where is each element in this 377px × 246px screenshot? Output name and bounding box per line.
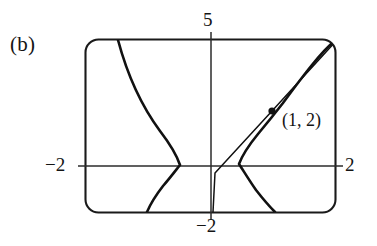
axis-label-top: 5	[203, 10, 213, 29]
axis-label-right: 2	[345, 155, 355, 174]
tangency-point-marker	[268, 107, 275, 114]
axis-label-left: −2	[45, 155, 65, 174]
figure-container: (b) 5 −2 2	[0, 0, 377, 246]
tangency-point-label: (1, 2)	[282, 111, 321, 129]
axis-label-bottom: −2	[196, 216, 216, 235]
